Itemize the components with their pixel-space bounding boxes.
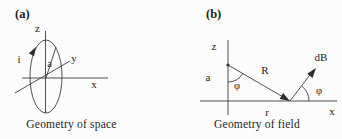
physics-figure: (a) z y x i a Geometry of space (b) [0, 0, 342, 139]
b-separation-label: R [261, 64, 269, 76]
b-angle-source-label: φ [234, 80, 240, 91]
b-angle-field-label: φ [316, 85, 322, 96]
panel-a-tag: (a) [15, 7, 30, 21]
a-current-label: i [17, 53, 20, 65]
a-y-label: y [71, 52, 77, 64]
panel-b: (b) z x a R r dB φ φ Geometry of f [200, 7, 337, 131]
panel-a: (a) z y x i a Geometry of space [15, 7, 117, 131]
panel-a-caption: Geometry of space [26, 118, 116, 131]
a-radius-label: a [47, 58, 52, 69]
panel-b-tag: (b) [206, 7, 221, 21]
a-z-label: z [35, 22, 40, 34]
b-height-label: a [206, 71, 211, 83]
b-field-label: dB [315, 51, 328, 63]
b-z-label: z [212, 40, 217, 52]
geometry-diagram-svg: (a) z y x i a Geometry of space (b) [0, 0, 342, 139]
b-separation-arrowhead-icon [280, 93, 290, 101]
a-x-label: x [91, 78, 97, 90]
panel-b-caption: Geometry of field [214, 118, 300, 131]
b-radial-distance-label: r [265, 106, 269, 118]
b-x-label: x [329, 105, 335, 117]
a-current-arrowhead-icon [29, 47, 36, 56]
b-angle-arc-field-point [302, 86, 309, 101]
